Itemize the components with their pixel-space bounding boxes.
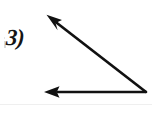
- angle-vertex-point: [145, 91, 148, 94]
- ray-upper-left-arrowhead-icon: [47, 15, 63, 30]
- figure-canvas: 3): [0, 0, 152, 113]
- angle-diagram: [0, 0, 152, 113]
- ray-horizontal-left: [44, 86, 146, 97]
- ray-upper-left: [47, 15, 147, 92]
- ray-upper-left-shaft: [55, 22, 146, 93]
